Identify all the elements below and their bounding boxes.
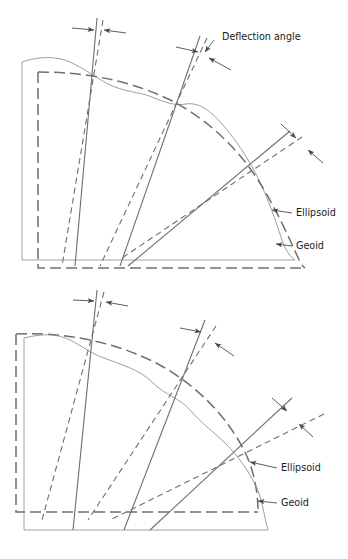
lower-line-pair-2 [88, 320, 216, 530]
upper-angle-marker-2 [176, 40, 231, 70]
ellipsoid-normal-1-lower [42, 292, 104, 520]
ellipsoid-label-upper: Ellipsoid [296, 207, 336, 218]
plumb-line-1-upper [75, 18, 97, 266]
plumb-line-1-lower [73, 290, 97, 530]
geoid-profile-upper [22, 58, 295, 261]
upper-angle-marker-3 [281, 124, 323, 163]
ellipsoid-leader-upper-icon [272, 210, 292, 213]
angle-arrow-right-icon [215, 343, 234, 356]
lower-diagram: Ellipsoid Geoid [16, 290, 324, 530]
angle-arrow-right-icon [104, 30, 126, 33]
geoid-label-upper: Geoid [296, 240, 324, 251]
ellipsoid-axes-lower [16, 334, 258, 512]
geoid-profile-lower [24, 335, 268, 530]
geoid-leader-lower-icon [258, 501, 277, 503]
angle-arrow-left-icon [180, 328, 201, 332]
deflection-angle-label: Deflection angle [222, 31, 301, 42]
angle-arrow-right-icon [209, 58, 231, 70]
angle-arrow-right-icon [308, 150, 323, 163]
angle-arrow-left-icon [73, 300, 94, 301]
plumb-line-2-upper [120, 36, 200, 266]
deflection-angle-leader-icon [205, 40, 214, 52]
upper-line-pair-3 [122, 131, 302, 266]
plumb-line-2-lower [124, 320, 205, 530]
angle-arrow-left-icon [176, 47, 198, 52]
angle-arrow-right-icon [299, 424, 313, 437]
ellipsoid-normal-2-upper [100, 38, 207, 266]
upper-line-pair-2 [100, 36, 207, 266]
ellipsoid-profile-lower [16, 334, 258, 512]
plumb-line-3-lower [150, 398, 292, 530]
upper-line-pair-1 [62, 18, 103, 266]
upper-diagram: Deflection angle Ellipsoid Geoid [22, 18, 336, 268]
ellipsoid-leader-lower-icon [250, 462, 277, 468]
ellipsoid-normal-1-upper [62, 20, 103, 266]
ellipsoid-normal-2-lower [88, 326, 216, 520]
figure-root: Deflection angle Ellipsoid Geoid [0, 0, 348, 559]
upper-geoid-surface [22, 58, 295, 261]
plumb-line-3-upper [128, 131, 290, 266]
upper-angle-marker-1 [72, 28, 126, 33]
lower-line-pair-1 [42, 290, 104, 530]
lower-angle-marker-2 [180, 328, 234, 356]
angle-arrow-left-icon [72, 28, 94, 30]
geoid-axes-lower [24, 338, 268, 530]
ellipsoid-normal-3-upper [122, 137, 302, 258]
angle-arrow-right-icon [106, 302, 128, 306]
geoid-ellipsoid-figure: Deflection angle Ellipsoid Geoid [0, 0, 348, 559]
angle-arrow-left-icon [281, 124, 296, 138]
ellipsoid-label-lower: Ellipsoid [281, 462, 321, 473]
lower-geoid-surface [24, 335, 268, 530]
lower-ellipsoid-surface [16, 334, 258, 512]
geoid-label-lower: Geoid [281, 497, 309, 508]
lower-angle-marker-3 [272, 398, 313, 437]
